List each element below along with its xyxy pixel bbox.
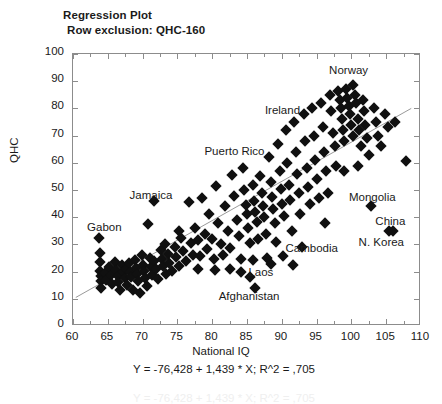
y-axis-tick-right — [414, 272, 419, 273]
y-axis-tick-label: 100 — [36, 45, 64, 57]
x-axis-tick — [212, 319, 213, 324]
x-axis-minor-tick-top — [195, 54, 196, 57]
x-axis-minor-tick-top — [125, 54, 126, 57]
x-axis-minor-tick — [230, 321, 231, 324]
x-axis-tick-label: 90 — [266, 330, 296, 342]
x-axis-minor-tick-top — [264, 54, 265, 57]
y-axis-tick — [73, 217, 78, 218]
x-axis-tick-label: 80 — [196, 330, 226, 342]
x-axis-minor-tick — [334, 321, 335, 324]
x-axis-tick-label: 105 — [370, 330, 400, 342]
x-axis-tick-label: 60 — [57, 330, 87, 342]
x-axis-minor-tick-top — [230, 54, 231, 57]
x-axis-minor-tick — [160, 321, 161, 324]
x-axis-minor-tick-top — [369, 54, 370, 57]
x-axis-tick-top — [212, 54, 213, 59]
x-axis-tick-label: 75 — [161, 330, 191, 342]
x-axis-minor-tick-top — [299, 54, 300, 57]
regression-equation-ghost: Y = -76,428 + 1,439 * X; R^2 = ,705 — [0, 392, 442, 404]
y-axis-tick — [73, 190, 78, 191]
x-axis-minor-tick — [369, 321, 370, 324]
x-axis-minor-tick — [264, 321, 265, 324]
x-axis-tick — [177, 319, 178, 324]
y-axis-tick-right — [414, 136, 419, 137]
x-axis-tick — [317, 319, 318, 324]
y-axis-tick-label: 30 — [36, 235, 64, 247]
y-axis-tick — [73, 163, 78, 164]
x-axis-minor-tick — [195, 321, 196, 324]
x-axis-tick — [282, 319, 283, 324]
chart-title-block: Regression Plot Row exclusion: QHC-160 — [63, 8, 205, 38]
y-axis-tick — [73, 108, 78, 109]
x-axis-tick-top — [317, 54, 318, 59]
x-axis-tick-label: 85 — [231, 330, 261, 342]
y-axis-tick-right — [414, 108, 419, 109]
x-axis-tick — [143, 319, 144, 324]
y-axis-tick — [73, 299, 78, 300]
y-axis-tick-label: 20 — [36, 263, 64, 275]
y-axis-tick — [73, 136, 78, 137]
y-axis-tick-right — [414, 163, 419, 164]
point-label: Afghanistan — [219, 290, 280, 302]
y-axis-tick — [73, 272, 78, 273]
y-axis-tick — [73, 81, 78, 82]
y-axis-tick-right — [414, 217, 419, 218]
y-axis-tick-label: 0 — [36, 317, 64, 329]
y-axis-tick — [73, 244, 78, 245]
point-label: Puerto Rico — [204, 145, 264, 157]
point-label: Cambodia — [286, 242, 338, 254]
y-axis-tick-right — [414, 81, 419, 82]
x-axis-tick-top — [143, 54, 144, 59]
y-axis-tick-label: 50 — [36, 181, 64, 193]
x-axis-minor-tick — [299, 321, 300, 324]
x-axis-tick — [108, 319, 109, 324]
x-axis-tick-top — [108, 54, 109, 59]
point-label: N. Korea — [359, 236, 404, 248]
point-label: Ireland — [265, 104, 300, 116]
page-title: Regression Plot — [63, 8, 205, 23]
y-axis-tick-label: 70 — [36, 127, 64, 139]
x-axis-minor-tick-top — [90, 54, 91, 57]
x-axis-minor-tick-top — [334, 54, 335, 57]
x-axis-minor-tick-top — [404, 54, 405, 57]
x-axis-tick-label: 70 — [127, 330, 157, 342]
regression-equation: Y = -76,428 + 1,439 * X; R^2 = ,705 — [0, 363, 442, 375]
y-axis-tick-right — [414, 54, 419, 55]
point-label: Norway — [329, 64, 368, 76]
x-axis-tick — [247, 319, 248, 324]
point-label: Laos — [248, 266, 273, 278]
x-axis-tick — [386, 319, 387, 324]
point-label: Mongolia — [349, 191, 396, 203]
x-axis-minor-tick — [404, 321, 405, 324]
x-axis-tick — [73, 319, 74, 324]
point-label: China — [375, 215, 405, 227]
y-axis-tick-label: 40 — [36, 208, 64, 220]
chart-subtitle: Row exclusion: QHC-160 — [63, 23, 205, 38]
x-axis-tick-top — [247, 54, 248, 59]
y-axis-tick-label: 80 — [36, 99, 64, 111]
y-axis-title: QHC — [8, 137, 20, 163]
x-axis-title: National IQ — [0, 345, 442, 357]
y-axis-tick-label: 90 — [36, 72, 64, 84]
x-axis-tick-top — [386, 54, 387, 59]
x-axis-tick-label: 110 — [405, 330, 435, 342]
y-axis-tick-right — [414, 299, 419, 300]
y-axis-tick-right — [414, 244, 419, 245]
x-axis-tick-top — [177, 54, 178, 59]
x-axis-minor-tick-top — [160, 54, 161, 57]
x-axis-minor-tick — [90, 321, 91, 324]
y-axis-tick-label: 60 — [36, 154, 64, 166]
x-axis-tick-label: 95 — [301, 330, 331, 342]
plot-area: NorwayIrelandPuerto RicoJamaicaGabonMong… — [72, 53, 420, 325]
x-axis-tick-top — [73, 54, 74, 59]
x-axis-tick-label: 65 — [92, 330, 122, 342]
x-axis-tick-top — [282, 54, 283, 59]
point-label: Gabon — [87, 221, 122, 233]
x-axis-minor-tick — [125, 321, 126, 324]
point-label: Jamaica — [130, 189, 173, 201]
x-axis-tick — [351, 319, 352, 324]
x-axis-tick-label: 100 — [335, 330, 365, 342]
x-axis-tick-top — [351, 54, 352, 59]
plot-canvas: NorwayIrelandPuerto RicoJamaicaGabonMong… — [73, 54, 419, 324]
